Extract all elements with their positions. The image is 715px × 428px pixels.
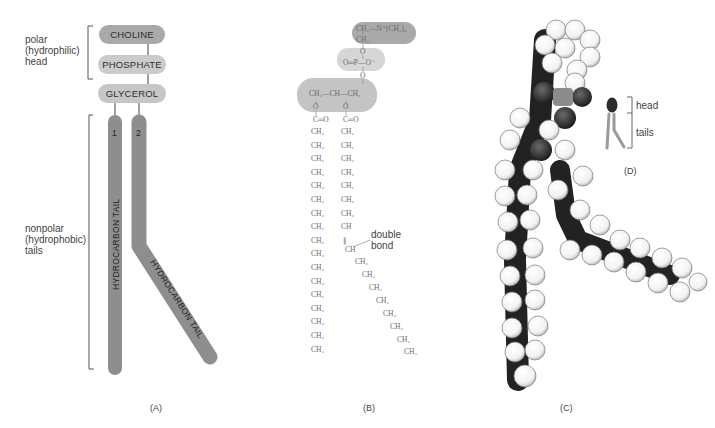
head-shape (607, 98, 618, 113)
head-label-d: head (636, 100, 658, 111)
tails-label-d: tails (636, 127, 654, 138)
lipid-icon (0, 0, 715, 428)
caption-d: (D) (624, 166, 637, 176)
